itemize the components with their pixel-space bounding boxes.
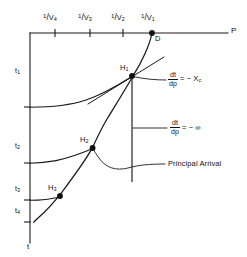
dtdp2-numerator: dt (170, 119, 180, 126)
figure-root: 1/V4 1/V3 1/V2 1/V1 P t t1 t2 t3 t4 D H1… (0, 0, 247, 257)
t-tick-label-t1: t1 (15, 67, 20, 75)
leader-principal-arrival (93, 148, 165, 169)
dtdp2-equation: = − ∞ (180, 124, 201, 132)
point-label-h1: H1 (120, 64, 128, 72)
point-h1-marker[interactable] (129, 73, 135, 79)
t-tick-label-t3: t3 (15, 185, 20, 193)
p-tick-label-1-over-v3: 1/V3 (78, 13, 92, 23)
p-axis-label: P (231, 27, 236, 35)
fraction-dt-dp-1: dt dp (168, 71, 178, 88)
branch-curve-h3 (31, 197, 60, 200)
t-axis-label: t (27, 243, 29, 251)
point-label-d: D (155, 35, 160, 43)
dtdp1-equation-text: = − X (180, 74, 198, 83)
t-tick-label-t4: t4 (15, 207, 20, 215)
point-label-h2: H2 (80, 136, 88, 144)
annotation-dtdp-xc: dt dp = − Xc (168, 71, 201, 88)
t3-sub: 3 (17, 187, 20, 193)
dtdp1-equation: = − Xc (178, 75, 201, 83)
t4-sub: 4 (17, 209, 20, 215)
t1-sub: 1 (17, 69, 20, 75)
dtdp2-denominator: dp (170, 128, 180, 135)
point-h2-marker[interactable] (90, 145, 96, 151)
h3-sub: 3 (53, 186, 56, 192)
branch-curve-h1 (31, 77, 132, 107)
h2-sub: 2 (85, 138, 88, 144)
t-tick-label-t2: t2 (15, 142, 20, 150)
annotation-dtdp-infinity: dt dp = − ∞ (170, 119, 201, 136)
leader-dtdp-xc (135, 77, 167, 80)
point-label-h3: H3 (48, 184, 56, 192)
annotation-principal-arrival: Principal Arrival (168, 160, 221, 168)
point-h3-marker[interactable] (57, 193, 63, 199)
t2-sub: 2 (17, 144, 20, 150)
dtdp1-numerator: dt (168, 71, 178, 78)
branch-curve-h2 (31, 149, 92, 163)
figure-canvas (0, 0, 247, 257)
fraction-dt-dp-2: dt dp (170, 119, 180, 136)
h1-sub: 1 (125, 66, 128, 72)
dtdp1-equation-sub: c (198, 77, 201, 83)
p-tick-label-1-over-v1: 1/V1 (141, 13, 155, 23)
dtdp1-denominator: dp (168, 80, 178, 87)
p-tick-label-1-over-v4: 1/V4 (43, 13, 57, 23)
p-tick-label-1-over-v2: 1/V2 (111, 13, 125, 23)
